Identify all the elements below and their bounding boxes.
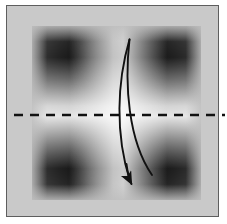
gradient-artwork-panel — [32, 26, 201, 200]
panel-edge-falloff — [32, 26, 201, 200]
figure-matte — [6, 5, 219, 217]
origami-fold-figure — [0, 0, 227, 224]
